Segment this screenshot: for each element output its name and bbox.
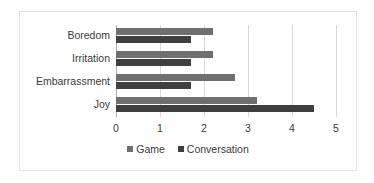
category-label: Embarrassment xyxy=(36,73,110,90)
bar-conversation xyxy=(116,59,191,66)
bar-conversation xyxy=(116,36,191,43)
x-axis-tick-labels: 012345 xyxy=(116,120,336,136)
category-row: Boredom xyxy=(116,25,336,48)
category-row: Embarrassment xyxy=(116,71,336,94)
legend-swatch-conversation-icon xyxy=(178,146,184,152)
legend-item-game[interactable]: Game xyxy=(127,143,165,155)
bar-game xyxy=(116,51,213,58)
category-label: Irritation xyxy=(72,50,110,67)
bar-game xyxy=(116,28,213,35)
x-tick-label: 1 xyxy=(157,120,163,136)
category-row: Irritation xyxy=(116,48,336,71)
legend-label: Conversation xyxy=(187,143,249,155)
chart-legend: GameConversation xyxy=(20,143,356,155)
x-tick-label: 2 xyxy=(201,120,207,136)
chart-frame: BoredomIrritationEmbarrassmentJoy 012345… xyxy=(19,11,357,171)
bar-game xyxy=(116,97,257,104)
plot-area: BoredomIrritationEmbarrassmentJoy xyxy=(116,25,336,117)
gridline-5 xyxy=(336,25,337,117)
bar-game xyxy=(116,74,235,81)
bar-conversation xyxy=(116,105,314,112)
legend-label: Game xyxy=(136,143,165,155)
legend-swatch-game-icon xyxy=(127,146,133,152)
legend-item-conversation[interactable]: Conversation xyxy=(178,143,249,155)
x-tick-label: 5 xyxy=(333,120,339,136)
bar-conversation xyxy=(116,82,191,89)
x-tick-label: 0 xyxy=(113,120,119,136)
x-tick-label: 3 xyxy=(245,120,251,136)
category-row: Joy xyxy=(116,94,336,117)
category-label: Joy xyxy=(94,96,110,113)
category-label: Boredom xyxy=(67,27,110,44)
x-tick-label: 4 xyxy=(289,120,295,136)
